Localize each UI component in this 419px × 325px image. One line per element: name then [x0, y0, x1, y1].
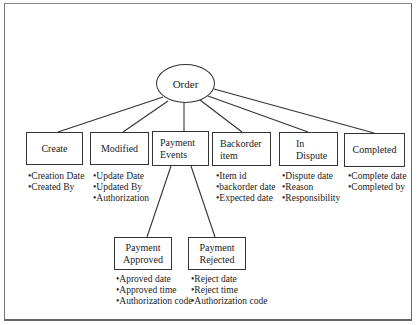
payment-events-node: Payment Events	[152, 131, 209, 166]
backorder-item-label: Backorder item	[220, 138, 262, 162]
backorder-item-attributes: Item id backorder date Expected date	[216, 171, 276, 204]
attribute-item: Reason	[282, 182, 340, 193]
in-dispute-node: In Dispute	[279, 132, 338, 166]
in-dispute-attributes: Dispute date Reason Responsibility	[282, 171, 340, 204]
completed-attributes: Complete date Completed by	[348, 171, 406, 193]
attribute-item: Creation Date	[28, 171, 84, 182]
attribute-item: Approved time	[116, 285, 192, 296]
order-label: Order	[173, 78, 199, 90]
payment-approved-node: Payment Approved	[114, 237, 172, 270]
attribute-item: Responsibility	[282, 193, 340, 204]
modified-attributes: Update Date Updated By Authorization	[93, 171, 149, 204]
payment-rejected-node: Payment Rejected	[188, 237, 246, 270]
payment-rejected-label: Payment Rejected	[200, 242, 235, 266]
edge-payment-approved	[147, 166, 171, 237]
completed-node: Completed	[344, 133, 405, 167]
attribute-item: Authorization code	[116, 296, 192, 307]
attribute-item: backorder date	[216, 182, 276, 193]
create-label: Create	[41, 143, 67, 155]
edge-order-modified	[123, 101, 168, 132]
attribute-item: Authorization code	[191, 296, 267, 307]
payment-approved-label: Payment Approved	[123, 242, 163, 266]
create-node: Create	[26, 132, 83, 165]
attribute-item: Item id	[216, 171, 276, 182]
modified-label: Modified	[101, 143, 138, 155]
create-attributes: Creation Date Created By	[28, 171, 84, 193]
attribute-item: Reject time	[191, 285, 267, 296]
attribute-item: Complete date	[348, 171, 406, 182]
payment-events-label: Payment Events	[160, 137, 195, 161]
edge-order-create	[58, 97, 163, 132]
attribute-item: Authorization	[93, 193, 149, 204]
attribute-item: Reject date	[191, 274, 267, 285]
modified-node: Modified	[90, 132, 149, 165]
attribute-item: Updated By	[93, 182, 149, 193]
edge-payment-rejected	[191, 166, 215, 237]
payment-rejected-attributes: Reject date Reject time Authorization co…	[191, 274, 267, 307]
order-node: Order	[156, 64, 215, 103]
attribute-item: Dispute date	[282, 171, 340, 182]
attribute-item: Created By	[28, 182, 84, 193]
backorder-item-node: Backorder item	[212, 132, 271, 166]
attribute-item: Update Date	[93, 171, 149, 182]
attribute-item: Completed by	[348, 182, 406, 193]
edge-order-backorder	[200, 100, 242, 132]
in-dispute-label: In Dispute	[296, 138, 327, 162]
completed-label: Completed	[353, 144, 397, 156]
payment-approved-attributes: Aproved date Approved time Authorization…	[116, 274, 192, 307]
attribute-item: Aproved date	[116, 274, 192, 285]
attribute-item: Expected date	[216, 193, 276, 204]
